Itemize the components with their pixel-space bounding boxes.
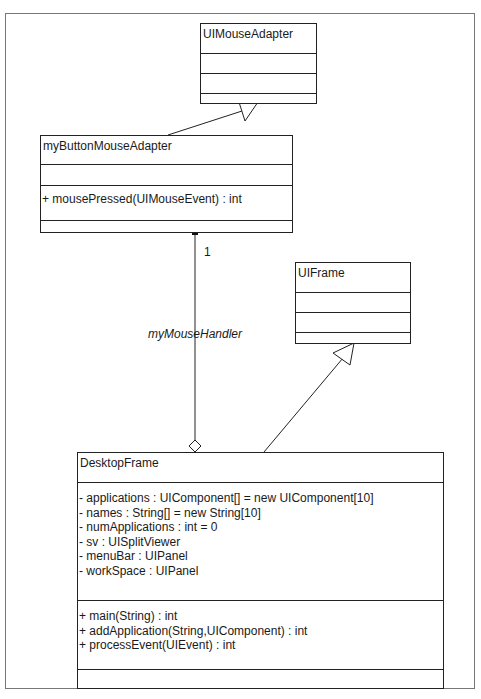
class-name: DesktopFrame (78, 453, 443, 470)
compartment-divider (41, 164, 292, 165)
attributes-list: - applications : UIComponent[] = new UIC… (79, 491, 443, 579)
operations-list: + mousePressed(UIMouseEvent) : int (42, 192, 292, 207)
class-name: UIMouseAdapter (201, 24, 316, 41)
compartment-divider (296, 312, 410, 313)
compartment-divider (296, 292, 410, 293)
compartment-divider (78, 600, 443, 601)
compartment-divider (201, 73, 316, 74)
generalization-edge-frame[interactable] (264, 343, 354, 452)
class-ui-mouse-adapter[interactable]: UIMouseAdapter (200, 23, 317, 104)
aggregation-diamond-icon (189, 440, 201, 452)
compartment-divider (296, 332, 410, 333)
multiplicity-label: 1 (204, 245, 211, 259)
attribute: - applications : UIComponent[] = new UIC… (79, 491, 443, 506)
compartment-divider (41, 185, 292, 186)
operation: + mousePressed(UIMouseEvent) : int (42, 192, 292, 207)
compartment-divider (78, 482, 443, 483)
compartment-divider (78, 669, 443, 670)
compartment-divider (201, 93, 316, 94)
compartment-divider (41, 220, 292, 221)
attribute: - menuBar : UIPanel (79, 549, 443, 564)
generalization-edge-mouse-adapter[interactable] (168, 99, 258, 135)
attribute: - numApplications : int = 0 (79, 520, 443, 535)
class-ui-frame[interactable]: UIFrame (295, 262, 411, 344)
inheritance-arrowhead-icon (333, 343, 354, 365)
operation: + processEvent(UIEvent) : int (79, 638, 443, 653)
operation: + main(String) : int (79, 609, 443, 624)
class-desktop-frame[interactable]: DesktopFrame - applications : UIComponen… (77, 452, 444, 689)
class-name: UIFrame (296, 263, 410, 280)
class-name: myButtonMouseAdapter (41, 136, 292, 153)
operation: + addApplication(String,UIComponent) : i… (79, 624, 443, 639)
attribute: - names : String[] = new String[10] (79, 506, 443, 521)
compartment-divider (201, 53, 316, 54)
attribute: - sv : UISplitViewer (79, 535, 443, 550)
attribute: - workSpace : UIPanel (79, 564, 443, 579)
operations-list: + main(String) : int + addApplication(St… (79, 609, 443, 653)
class-my-button-mouse-adapter[interactable]: myButtonMouseAdapter + mousePressed(UIMo… (40, 135, 293, 233)
role-label: myMouseHandler (148, 327, 242, 341)
